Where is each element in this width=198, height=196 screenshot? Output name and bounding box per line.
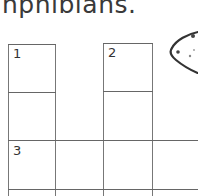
grid-line xyxy=(103,43,104,196)
grid-line xyxy=(8,44,9,196)
grid-line xyxy=(8,44,56,45)
clue-number-2: 2 xyxy=(108,45,116,60)
grid-line xyxy=(152,43,153,196)
worksheet-heading: nphibians. xyxy=(2,0,136,19)
frog-icon xyxy=(166,30,198,74)
grid-line xyxy=(103,43,153,44)
grid-line xyxy=(55,44,56,196)
grid-line xyxy=(8,140,198,141)
grid-line xyxy=(8,92,56,93)
clue-number-3: 3 xyxy=(13,143,21,158)
clue-number-1: 1 xyxy=(13,46,21,61)
grid-line xyxy=(103,91,153,92)
grid-line xyxy=(8,189,198,190)
